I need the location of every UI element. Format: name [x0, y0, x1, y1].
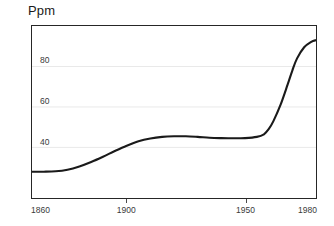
chart-container: Ppm 80 60 40 1860 1900 1950 1980	[0, 0, 334, 226]
data-series-line	[32, 26, 316, 198]
x-tick-label-1980: 1980	[298, 205, 317, 215]
x-tick-label-1950: 1950	[236, 205, 255, 215]
x-tick-mark-1950	[246, 199, 247, 203]
x-tick-mark-1900	[126, 199, 127, 203]
x-tick-label-1900: 1900	[117, 205, 136, 215]
y-axis-unit-label: Ppm	[28, 3, 55, 18]
x-tick-label-1860: 1860	[31, 205, 50, 215]
plot-area: 80 60 40	[31, 25, 317, 199]
